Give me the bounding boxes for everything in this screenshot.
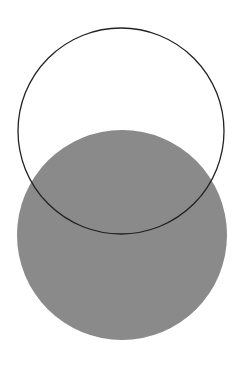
diagram-canvas bbox=[0, 0, 241, 367]
gray-filled-circle bbox=[17, 130, 227, 340]
